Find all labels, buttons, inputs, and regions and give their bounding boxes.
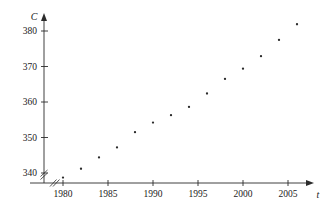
data-point-group: [62, 23, 298, 179]
data-point: [278, 39, 280, 41]
y-axis-tick-label: 350: [23, 133, 38, 143]
data-point: [296, 23, 298, 25]
y-axis-arrow-icon: [41, 13, 47, 21]
data-point: [152, 121, 154, 123]
data-point: [98, 156, 100, 158]
x-axis-tick-label: 2005: [279, 189, 298, 199]
x-axis-tick-label: 1980: [54, 189, 73, 199]
axes-group: [30, 13, 314, 187]
data-point: [134, 131, 136, 133]
data-point: [62, 176, 64, 178]
data-point: [206, 92, 208, 94]
data-point: [170, 114, 172, 116]
data-point: [116, 146, 118, 148]
y-axis-label: C: [31, 11, 38, 22]
y-axis-tick-label: 380: [23, 26, 38, 36]
scatter-plot-svg: 198019851990199520002005 340350360370380…: [0, 0, 331, 211]
x-axis-tick-label: 1995: [189, 189, 208, 199]
x-axis-tick-label: 1985: [99, 189, 118, 199]
data-point: [188, 106, 190, 108]
y-axis-tick-label: 340: [23, 168, 38, 178]
chart-figure: 198019851990199520002005 340350360370380…: [0, 0, 331, 211]
data-point: [80, 168, 82, 170]
x-axis-arrow-icon: [306, 180, 314, 186]
data-point: [224, 78, 226, 80]
x-axis-label: t: [317, 189, 320, 200]
x-axis-tick-label: 2000: [234, 189, 253, 199]
y-axis-tick-label: 370: [23, 62, 38, 72]
data-point: [260, 55, 262, 57]
y-axis-tick-label: 360: [23, 97, 38, 107]
data-point: [242, 67, 244, 69]
x-axis-tick-label: 1990: [144, 189, 163, 199]
